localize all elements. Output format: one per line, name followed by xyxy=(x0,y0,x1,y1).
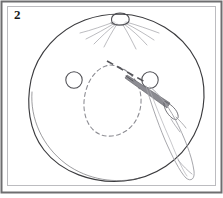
instruction-diagram xyxy=(0,0,223,198)
figure-container: 2 xyxy=(0,0,223,198)
diagram-background xyxy=(0,0,223,198)
step-number-label: 2 xyxy=(14,8,21,22)
